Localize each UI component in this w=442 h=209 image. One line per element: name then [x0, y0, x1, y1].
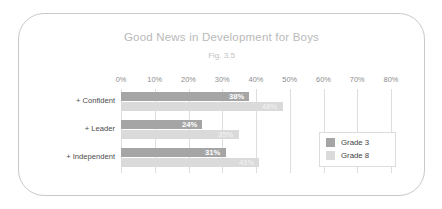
- bar-value-grade3-confident: 38%: [229, 92, 244, 101]
- bar-value-grade8-leader: 35%: [218, 130, 233, 139]
- x-tick-label: 80%: [384, 75, 399, 84]
- x-tick-label: 50%: [282, 75, 297, 84]
- chart-subtitle: Fig. 3.5: [19, 51, 424, 60]
- legend-item-grade3: Grade 3: [326, 138, 389, 147]
- bar-value-grade3-leader: 24%: [182, 120, 197, 129]
- x-tick-label: 60%: [316, 75, 331, 84]
- legend-swatch-grade3: [326, 138, 335, 147]
- bar-value-grade3-independent: 31%: [205, 148, 220, 157]
- x-tick-label: 40%: [249, 75, 264, 84]
- x-tick-label: 30%: [215, 75, 230, 84]
- category-label-confident: + Confident: [76, 96, 115, 105]
- bar-value-grade8-independent: 41%: [239, 158, 254, 167]
- legend-swatch-grade8: [326, 151, 335, 160]
- x-tick-label: 10%: [147, 75, 162, 84]
- legend-label-grade8: Grade 8: [341, 151, 369, 160]
- x-tick-label: 20%: [181, 75, 196, 84]
- x-tick-label: 0%: [116, 75, 127, 84]
- chart-screenshot: Good News in Development for Boys Fig. 3…: [0, 0, 442, 209]
- gridline-50: [290, 89, 291, 173]
- x-tick-label: 70%: [350, 75, 365, 84]
- chart-legend: Grade 3 Grade 8: [319, 132, 396, 167]
- legend-item-grade8: Grade 8: [326, 151, 389, 160]
- chart-card: Good News in Development for Boys Fig. 3…: [18, 13, 425, 196]
- legend-label-grade3: Grade 3: [341, 138, 369, 147]
- chart-title: Good News in Development for Boys: [19, 31, 424, 43]
- bar-value-grade8-confident: 48%: [262, 102, 277, 111]
- bar-grade8-confident: [121, 102, 283, 111]
- category-label-independent: + Independent: [66, 152, 115, 161]
- category-label-leader: + Leader: [85, 124, 115, 133]
